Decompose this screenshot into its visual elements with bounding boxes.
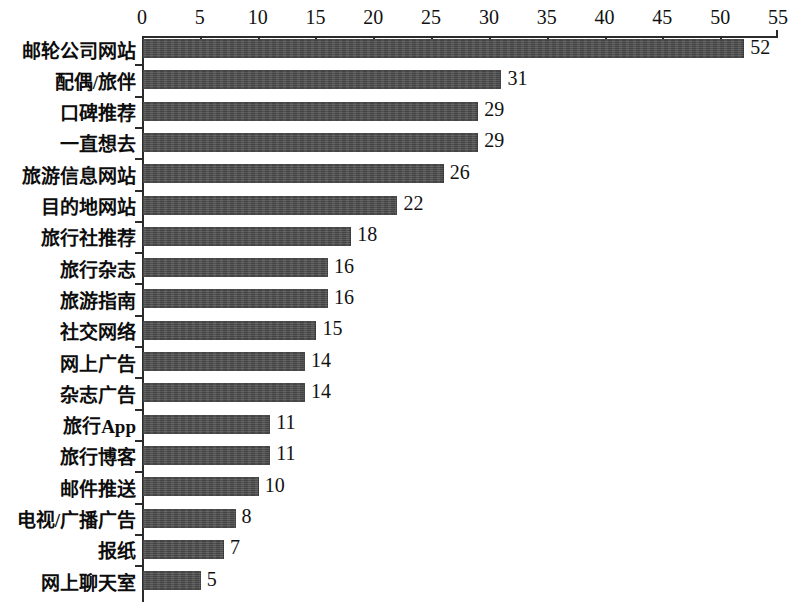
y-tick-mark-1	[135, 64, 142, 66]
category-label-16: 报纸	[98, 536, 136, 563]
bar-7	[143, 258, 328, 277]
category-label-14: 邮件推送	[60, 474, 136, 501]
bar-value-label-3: 29	[484, 129, 504, 152]
y-tick-mark-8	[135, 283, 142, 285]
y-tick-mark-14	[135, 471, 142, 473]
x-tick-label-55: 55	[768, 4, 788, 30]
bar-value-label-1: 31	[507, 67, 527, 90]
bar-1	[143, 70, 501, 89]
y-tick-mark-13	[135, 440, 142, 442]
bar-0	[143, 39, 744, 58]
bar-value-label-13: 11	[276, 442, 295, 465]
category-label-7: 旅行杂志	[60, 255, 136, 282]
x-tick-label-20: 20	[363, 4, 383, 30]
bar-13	[143, 446, 270, 465]
x-tick-label-5: 5	[195, 4, 205, 30]
y-tick-mark-10	[135, 346, 142, 348]
bar-17	[143, 571, 201, 590]
category-label-15: 电视/广播广告	[17, 505, 136, 532]
category-label-11: 杂志广告	[60, 380, 136, 407]
bar-value-label-16: 7	[230, 536, 240, 559]
bar-value-label-7: 16	[334, 255, 354, 278]
x-tick-label-15: 15	[305, 4, 325, 30]
category-label-5: 目的地网站	[41, 192, 136, 219]
bar-value-label-12: 11	[276, 411, 295, 434]
bar-value-label-11: 14	[311, 380, 331, 403]
x-axis-tick-labels: 0510152025303540455055	[0, 0, 795, 32]
y-tick-mark-16	[135, 534, 142, 536]
y-tick-mark-2	[135, 96, 142, 98]
category-label-2: 口碑推荐	[60, 98, 136, 125]
y-tick-mark-6	[135, 221, 142, 223]
bar-15	[143, 509, 236, 528]
x-tick-label-50: 50	[710, 4, 730, 30]
category-label-6: 旅行社推荐	[41, 223, 136, 250]
y-tick-mark-12	[135, 409, 142, 411]
category-label-1: 配偶/旅伴	[55, 67, 136, 94]
bar-14	[143, 477, 259, 496]
category-label-17: 网上聊天室	[41, 568, 136, 595]
bar-12	[143, 415, 270, 434]
category-label-10: 网上广告	[60, 349, 136, 376]
x-tick-label-40: 40	[595, 4, 615, 30]
y-tick-mark-15	[135, 503, 142, 505]
y-tick-mark-7	[135, 252, 142, 254]
x-tick-label-30: 30	[479, 4, 499, 30]
bar-9	[143, 321, 316, 340]
bar-value-label-15: 8	[242, 505, 252, 528]
bar-value-label-6: 18	[357, 223, 377, 246]
bar-value-label-14: 10	[265, 474, 285, 497]
x-tick-label-45: 45	[652, 4, 672, 30]
x-tick-label-10: 10	[248, 4, 268, 30]
y-tick-mark-4	[135, 158, 142, 160]
bar-value-label-4: 26	[450, 161, 470, 184]
bar-value-label-10: 14	[311, 349, 331, 372]
y-tick-mark-9	[135, 315, 142, 317]
category-label-3: 一直想去	[60, 129, 136, 156]
x-tick-label-25: 25	[421, 4, 441, 30]
bar-value-label-8: 16	[334, 286, 354, 309]
category-label-4: 旅游信息网站	[22, 161, 136, 188]
bar-11	[143, 383, 305, 402]
category-label-0: 邮轮公司网站	[22, 36, 136, 63]
y-tick-mark-5	[135, 190, 142, 192]
bar-10	[143, 352, 305, 371]
category-label-12: 旅行App	[63, 411, 136, 438]
bar-value-label-17: 5	[207, 568, 217, 591]
bar-value-label-5: 22	[403, 192, 423, 215]
bar-3	[143, 133, 478, 152]
x-axis-line	[142, 36, 778, 38]
bar-value-label-9: 15	[322, 317, 342, 340]
category-label-9: 社交网络	[60, 317, 136, 344]
y-tick-mark-17	[135, 565, 142, 567]
bar-16	[143, 540, 224, 559]
y-tick-mark-11	[135, 377, 142, 379]
y-tick-mark-3	[135, 127, 142, 129]
category-label-13: 旅行博客	[60, 442, 136, 469]
bar-value-label-0: 52	[750, 36, 770, 59]
bar-4	[143, 164, 444, 183]
bar-8	[143, 289, 328, 308]
bar-6	[143, 227, 351, 246]
x-tick-label-0: 0	[137, 4, 147, 30]
bar-2	[143, 102, 478, 121]
category-label-8: 旅游指南	[60, 286, 136, 313]
x-tick-label-35: 35	[537, 4, 557, 30]
bar-value-label-2: 29	[484, 98, 504, 121]
bar-5	[143, 196, 397, 215]
x-axis-right-cap	[776, 30, 778, 36]
